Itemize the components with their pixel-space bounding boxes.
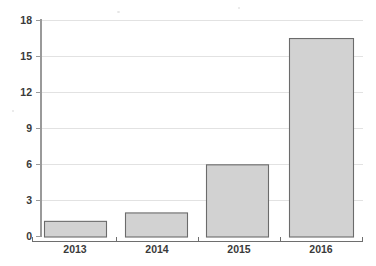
y-tick-label-3: 3: [26, 194, 32, 206]
bar-2016[interactable]: [290, 39, 354, 237]
y-tick-label-0: 0: [26, 230, 32, 242]
x-label-2013: 2013: [63, 243, 87, 255]
y-tick-label-6: 6: [26, 158, 32, 170]
bar-2015[interactable]: [207, 165, 269, 237]
y-tick-label-9: 9: [26, 122, 32, 134]
bar-2014[interactable]: [126, 213, 188, 237]
x-label-2014: 2014: [145, 243, 169, 255]
chart-canvas: 18 15 12 9 6 3 0 2013 2014: [0, 0, 376, 266]
scan-speck: [117, 11, 120, 13]
x-label-2015: 2015: [227, 243, 251, 255]
bar-2013[interactable]: [45, 221, 107, 237]
y-tick-label-12: 12: [20, 86, 32, 98]
scan-speck: [238, 7, 240, 9]
scan-speck: [12, 110, 14, 112]
y-tick-label-15: 15: [20, 50, 32, 62]
y-tick-label-18: 18: [20, 14, 32, 26]
bar-chart-figure: 18 15 12 9 6 3 0 2013 2014: [0, 0, 376, 266]
x-label-2016: 2016: [309, 243, 333, 255]
